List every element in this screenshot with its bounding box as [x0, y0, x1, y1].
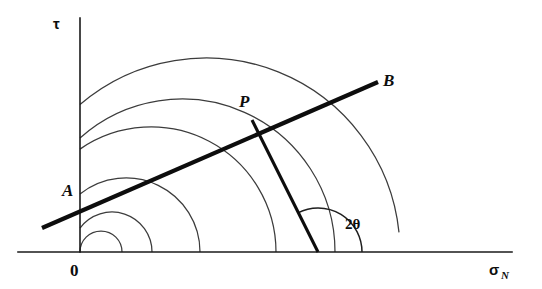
mohr-circle-5 — [80, 99, 335, 252]
mohr-circle-1 — [80, 231, 122, 252]
mohr-circle-6 — [80, 58, 399, 232]
angle-2theta-label: 2θ — [345, 216, 361, 232]
point-p-label: P — [238, 92, 250, 111]
origin-label: 0 — [70, 261, 79, 280]
mohr-circle-figure: τ σ N 0 A B P 2θ — [0, 0, 542, 289]
mohr-circle-2 — [80, 212, 152, 252]
sigma-n-axis-label: σ N — [489, 261, 510, 281]
mohr-diagram-canvas: τ σ N 0 A B P 2θ — [0, 0, 542, 289]
tau-axis-label: τ — [53, 15, 60, 32]
point-b-label: B — [382, 71, 394, 90]
radius-to-P — [252, 120, 318, 252]
point-a-label: A — [61, 181, 73, 200]
sigma-subscript-n: N — [500, 269, 510, 281]
sigma-symbol: σ — [489, 261, 499, 278]
